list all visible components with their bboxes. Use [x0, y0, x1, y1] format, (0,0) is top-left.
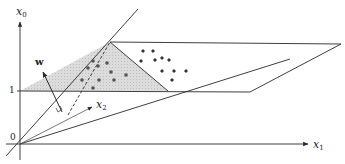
hyperplane-diagram	[0, 0, 345, 164]
x0-axis-label: x0	[16, 6, 27, 19]
x2-axis-label: x2	[96, 99, 107, 112]
x1-axis-label: x1	[313, 139, 324, 152]
origin-label: 0	[10, 133, 16, 142]
x2-axis	[20, 107, 92, 144]
w-vector-label: w	[35, 57, 44, 67]
tick-one-label: 1	[9, 86, 15, 95]
